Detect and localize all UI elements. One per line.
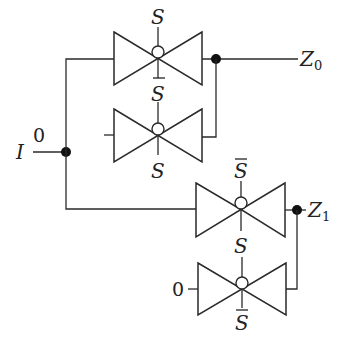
tg3-top-control-label: S <box>234 159 248 183</box>
z0-label: Z0 <box>299 47 322 73</box>
input-i-label: I <box>15 140 25 164</box>
transmission-gate-2: 0 S <box>33 102 202 183</box>
tg4-right-triangle <box>242 263 286 315</box>
tg3-inversion-bubble <box>235 197 247 209</box>
tg2-left-triangle <box>114 109 158 162</box>
tg4-output-wire <box>286 210 297 289</box>
tg3-right-triangle <box>241 183 285 237</box>
tg4-constant-zero-label: 0 <box>172 278 184 300</box>
tg2-inversion-bubble <box>152 123 164 135</box>
tg1-top-control-label: S <box>151 5 165 29</box>
tg1-inversion-bubble <box>152 46 164 58</box>
transmission-gate-1: S S <box>114 5 202 106</box>
tg2-bottom-control-label: S <box>151 159 165 183</box>
z1-label: Z1 <box>307 198 330 224</box>
tg4-inversion-bubble <box>236 277 248 289</box>
tg2-right-triangle <box>158 109 202 162</box>
tg2-output-wire <box>202 59 216 137</box>
tg1-left-triangle <box>114 32 158 85</box>
transmission-gate-3: S S <box>196 159 285 258</box>
tg4-left-triangle <box>198 263 242 315</box>
transmission-gate-4: 0 S <box>172 257 286 335</box>
tg2-constant-zero-label: 0 <box>33 124 45 146</box>
tg3-left-triangle <box>196 183 241 237</box>
demux-circuit-diagram: I S S Z0 0 S S S <box>0 0 351 346</box>
tg4-bottom-control-label: S <box>235 311 249 335</box>
tg3-bottom-control-label: S <box>234 234 248 258</box>
tg1-right-triangle <box>158 32 202 85</box>
